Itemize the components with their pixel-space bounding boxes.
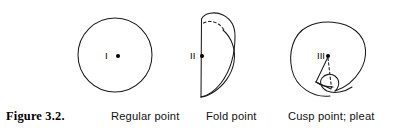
regular-point-circle [78, 18, 152, 92]
caption-fold-point: Fold point [206, 110, 257, 122]
fold-outer-contour [201, 13, 235, 97]
caption-cusp-point: Cusp point; pleat [288, 110, 375, 122]
point-label-regular: I [105, 51, 108, 61]
caption-regular-point: Regular point [111, 110, 180, 122]
panel-cusp-point-drawing [291, 22, 366, 96]
cusp-hidden-edge [328, 58, 332, 88]
fold-hidden-crease [204, 21, 225, 30]
fold-left-edge [201, 19, 202, 97]
caption-row: Figure 3.2. Regular point Fold point Cus… [0, 103, 398, 132]
cusp-pleat-right-fold [321, 74, 352, 92]
point-label-cusp: III [317, 51, 325, 61]
figure-container: I II III Figure 3.2. Regular point Fold … [0, 0, 398, 132]
regular-point-dot [116, 54, 120, 58]
panel-regular-point-drawing [78, 18, 152, 92]
figure-number-label: Figure 3.2. [6, 109, 65, 124]
panel-fold-point-drawing [200, 13, 235, 97]
fold-point-dot [200, 54, 204, 58]
point-label-fold: II [190, 51, 195, 61]
cusp-point-dot [326, 54, 330, 58]
